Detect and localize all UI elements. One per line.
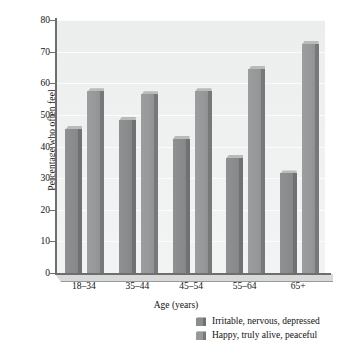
x-axis-tick-label: 18–34 (54, 281, 114, 291)
y-axis-tick-label: 60 (28, 78, 50, 88)
bar (119, 120, 136, 273)
bar (195, 91, 212, 273)
bar (87, 91, 104, 273)
y-axis-tick-label: 40 (28, 142, 50, 152)
y-axis-tick-label: 30 (28, 173, 50, 183)
y-axis-tick-label: 80 (28, 15, 50, 25)
legend-swatch-icon (196, 331, 206, 340)
y-axis-tick-label: 50 (28, 110, 50, 120)
bar (141, 94, 158, 273)
x-axis-tick-label: 55–64 (215, 281, 275, 291)
legend-item: Irritable, nervous, depressed (196, 314, 320, 328)
bar-group (173, 20, 212, 273)
bar-group (119, 20, 158, 273)
x-axis-tick-label: 35–44 (107, 281, 167, 291)
bar (173, 139, 190, 273)
bar (248, 69, 265, 273)
y-axis-tick-label: 20 (28, 205, 50, 215)
bar-chart-figure: Percentage who often feel 01020304050607… (0, 0, 352, 353)
legend-label: Irritable, nervous, depressed (212, 316, 320, 326)
y-axis-line (55, 18, 57, 275)
bar (226, 158, 243, 273)
legend-swatch-icon (196, 317, 206, 326)
x-axis-tick-label: 65+ (268, 281, 328, 291)
bar (280, 173, 297, 273)
bar (302, 44, 319, 273)
bar (65, 129, 82, 273)
y-axis-tick-label: 0 (28, 268, 50, 278)
y-axis-tick-label: 70 (28, 47, 50, 57)
x-axis-title: Age (years) (0, 300, 352, 310)
x-axis-line (55, 273, 331, 275)
legend-item: Happy, truly alive, peaceful (196, 328, 320, 342)
bar-group (280, 20, 319, 273)
y-axis-tick-label: 10 (28, 236, 50, 246)
x-axis-tick-label: 45–54 (161, 281, 221, 291)
legend-label: Happy, truly alive, peaceful (212, 330, 317, 340)
plot-area (57, 20, 325, 273)
bar-group (226, 20, 265, 273)
legend: Irritable, nervous, depressed Happy, tru… (196, 314, 320, 342)
bar-group (65, 20, 104, 273)
